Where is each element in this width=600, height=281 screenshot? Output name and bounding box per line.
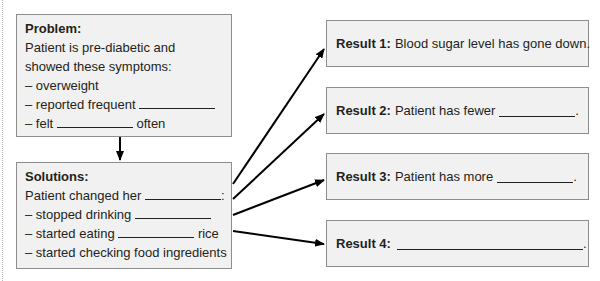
connector-arrows bbox=[0, 0, 600, 281]
arrow-to-result-4 bbox=[233, 231, 324, 244]
arrow-to-result-1 bbox=[233, 49, 324, 184]
